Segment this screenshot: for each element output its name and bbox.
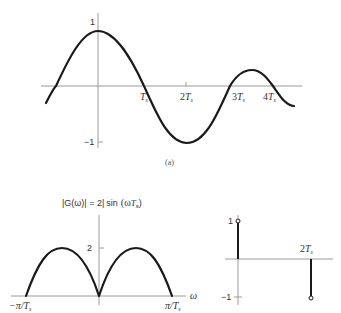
x-label-minus-pi-ts: −π/Ts <box>9 300 32 312</box>
waveform-curve <box>46 31 294 143</box>
figure-a-caption: (a) <box>165 158 174 167</box>
figure-a-waveform: 1 −1 Ts 2Ts 3Ts 4Ts (a) <box>41 13 302 167</box>
stem-negative-marker <box>309 296 313 300</box>
stem-positive-marker <box>236 219 240 223</box>
y-label-minus-1: −1 <box>84 137 94 147</box>
y-label-1: 1 <box>90 17 95 27</box>
y-label-minus-1-c: −1 <box>221 292 231 302</box>
x-label-4ts: 4Ts <box>263 91 277 103</box>
figure-canvas: 1 −1 Ts 2Ts 3Ts 4Ts (a) |G(ω)| = 2|sin(ω… <box>0 0 341 313</box>
omega-axis-label: ω <box>190 290 197 301</box>
x-label-3ts: 3Ts <box>232 91 246 103</box>
figure-c-impulses: 1 −1 2Ts <box>221 215 333 305</box>
x-label-pi-ts: π/Ts <box>165 300 181 312</box>
x-label-2ts: 2Ts <box>180 91 194 103</box>
y-label-2: 2 <box>87 243 92 253</box>
magnitude-title: |G(ω)| = 2|sin(ωTs) <box>62 197 142 209</box>
stem-label-2ts: 2Ts <box>300 243 314 255</box>
figure-b-magnitude: |G(ω)| = 2|sin(ωTs) 2 ω −π/Ts π/Ts <box>9 197 197 312</box>
y-label-1-c: 1 <box>228 216 233 226</box>
